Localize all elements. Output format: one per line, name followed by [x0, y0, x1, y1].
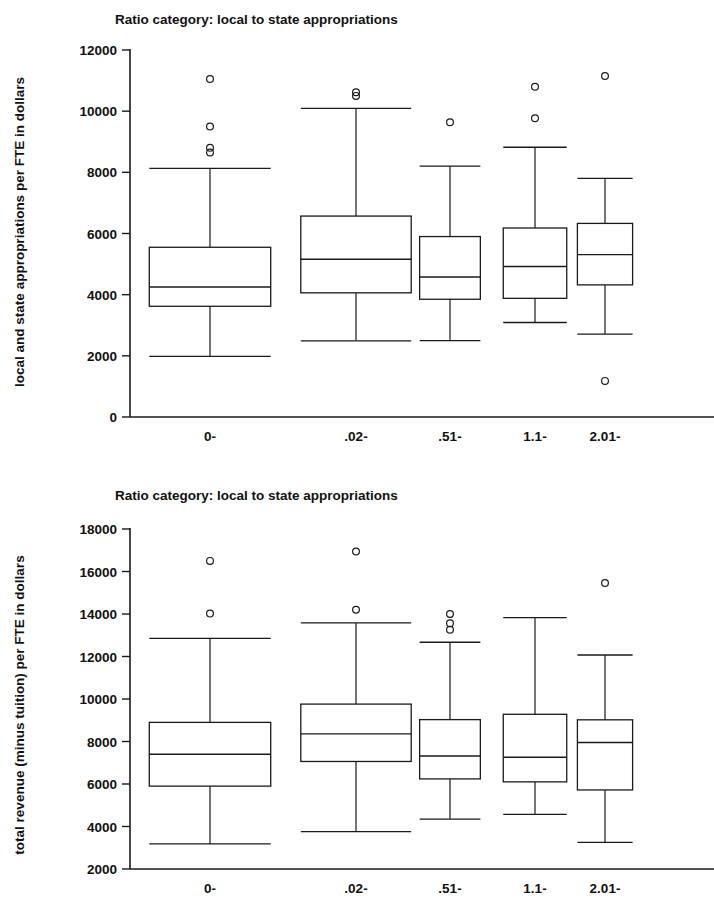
- box-iqr: [301, 704, 411, 761]
- boxplot-group-.02-: [301, 89, 411, 341]
- y-tick-label-12000: 12000: [79, 650, 117, 665]
- figure-page: Ratio category: local to state appropria…: [0, 0, 714, 919]
- boxplot-group-1.1-: [503, 618, 566, 815]
- boxplot-group-.51-: [420, 119, 481, 341]
- outlier-point-1: [353, 606, 360, 613]
- outlier-point-0: [532, 83, 539, 90]
- y-axis-title: local and state appropriations per FTE i…: [12, 77, 27, 387]
- box-iqr: [420, 237, 481, 300]
- outlier-point-0: [207, 76, 214, 83]
- x-tick-label-4: 2.01-: [590, 429, 621, 444]
- outlier-point-0: [207, 557, 214, 564]
- outlier-point-0: [602, 73, 609, 80]
- x-tick-label-3: 1.1-: [523, 881, 546, 896]
- x-tick-label-2: .51-: [438, 429, 461, 444]
- boxplot-bottom-svg: Ratio category: local to state appropria…: [0, 460, 714, 919]
- box-iqr: [301, 216, 411, 293]
- y-tick-label-18000: 18000: [79, 522, 117, 537]
- x-tick-label-0: 0-: [204, 429, 216, 444]
- outlier-point-1: [532, 115, 539, 122]
- outlier-point-3: [207, 149, 214, 156]
- y-tick-label-6000: 6000: [87, 777, 117, 792]
- x-tick-label-1: .02-: [344, 881, 367, 896]
- box-iqr: [420, 720, 481, 779]
- outlier-point-0: [447, 611, 454, 618]
- x-tick-label-4: 2.01-: [590, 881, 621, 896]
- y-tick-label-10000: 10000: [79, 104, 117, 119]
- y-tick-label-14000: 14000: [79, 607, 117, 622]
- y-tick-label-16000: 16000: [79, 565, 117, 580]
- box-iqr: [503, 714, 566, 782]
- x-tick-label-1: .02-: [344, 429, 367, 444]
- box-iqr: [149, 247, 270, 306]
- y-tick-label-2000: 2000: [87, 349, 117, 364]
- x-tick-label-0: 0-: [204, 881, 216, 896]
- boxplot-group-2.01-: [577, 73, 632, 385]
- outlier-point-0: [353, 548, 360, 555]
- y-tick-label-6000: 6000: [87, 227, 117, 242]
- x-tick-label-3: 1.1-: [523, 429, 546, 444]
- y-tick-label-10000: 10000: [79, 692, 117, 707]
- y-tick-label-4000: 4000: [87, 820, 117, 835]
- y-tick-label-8000: 8000: [87, 735, 117, 750]
- boxplot-group-.51-: [420, 611, 481, 819]
- boxplot-chart-top: Ratio category: local to state appropria…: [0, 0, 714, 460]
- outlier-point-0: [447, 119, 454, 126]
- y-tick-label-0: 0: [109, 410, 117, 425]
- y-axis-title: total revenue (minus tuition) per FTE in…: [12, 555, 27, 854]
- boxplot-group-1.1-: [503, 83, 566, 322]
- chart-title: Ratio category: local to state appropria…: [115, 488, 398, 503]
- outlier-point-1: [207, 123, 214, 130]
- boxplot-group-2.01-: [577, 580, 632, 843]
- box-iqr: [577, 720, 632, 790]
- box-iqr: [503, 228, 566, 298]
- boxplot-chart-bottom: Ratio category: local to state appropria…: [0, 460, 714, 919]
- y-tick-label-8000: 8000: [87, 165, 117, 180]
- y-tick-label-12000: 12000: [79, 43, 117, 58]
- boxplot-group-0-: [149, 76, 270, 357]
- outlier-point-1: [602, 378, 609, 385]
- outlier-point-0: [602, 580, 609, 587]
- boxplot-group-.02-: [301, 548, 411, 831]
- boxplot-group-0-: [149, 557, 270, 843]
- chart-title: Ratio category: local to state appropria…: [115, 12, 398, 27]
- y-tick-label-4000: 4000: [87, 288, 117, 303]
- boxplot-top-svg: Ratio category: local to state appropria…: [0, 0, 714, 460]
- outlier-point-1: [207, 610, 214, 617]
- y-tick-label-2000: 2000: [87, 862, 117, 877]
- x-tick-label-2: .51-: [438, 881, 461, 896]
